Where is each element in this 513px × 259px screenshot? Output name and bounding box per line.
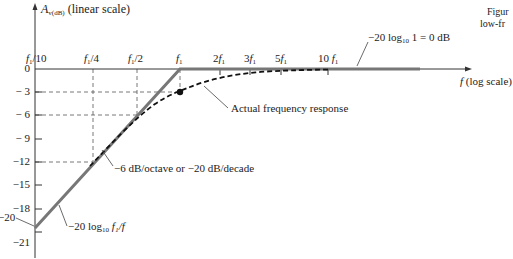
figure-caption-line1: Figur	[487, 7, 509, 17]
x-tick-f1-2: f1/2	[128, 53, 143, 66]
y-axis-label: Av(dB) (linear scale)	[41, 3, 130, 17]
y-tick-minus-6: − 6	[4, 109, 30, 120]
y-axis-arrow-icon	[33, 3, 38, 10]
x-tick-f1-4: f1/4	[84, 53, 99, 66]
x-tick-2f1: 2f1	[213, 53, 225, 66]
minus-3db-point	[177, 89, 183, 95]
x-axis-arrow-icon	[465, 67, 472, 72]
annotation-actual-response: Actual frequency response	[231, 103, 348, 114]
y-ticks	[35, 92, 42, 232]
annotation-asymptote: −20 log10 f₁/f	[68, 221, 125, 234]
x-tick-5f1: 5f1	[275, 53, 287, 66]
x-tick-3f1: 3f1	[244, 53, 256, 66]
x-tick-f1: f1	[176, 53, 183, 66]
x-axis-label: f (log scale)	[460, 76, 512, 87]
y-tick-minus-3: − 3	[4, 86, 30, 97]
y-label-minus-20: −20	[0, 212, 15, 223]
annotation-slope: −6 dB/octave or −20 dB/decade	[114, 163, 254, 174]
x-tick-10f1: 10 f1	[318, 53, 338, 66]
y-tick-minus-9: − 9	[4, 133, 30, 144]
figure-caption-line2: low-fr	[480, 19, 505, 29]
y-tick-minus-21: −21	[4, 237, 30, 248]
y-tick-0: 0	[4, 63, 30, 74]
y-tick-minus-12: −12	[4, 156, 30, 167]
actual-response-curve	[90, 70, 330, 167]
annotation-zero-db: −20 log10 1 = 0 dB	[368, 32, 450, 45]
y-tick-minus-15: −15	[4, 179, 30, 190]
